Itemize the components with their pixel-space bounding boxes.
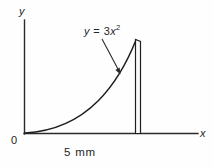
x-axis-label: x — [200, 128, 206, 139]
parabola-strip-diagram: y x 0 5 mm y = 3x2 — [0, 0, 213, 167]
equation-leader-line — [102, 39, 119, 70]
curve-equation-label: y = 3x2 — [84, 26, 121, 37]
x-dimension-label: 5 mm — [64, 147, 96, 159]
differential-strip — [136, 40, 141, 134]
equation-exponent: 2 — [116, 23, 121, 32]
equation-leader-arrowhead — [115, 68, 120, 75]
equation-equals-sign: = — [90, 25, 104, 37]
origin-label: 0 — [11, 135, 17, 146]
parabola-curve — [25, 40, 136, 133]
y-axis-label: y — [19, 6, 25, 17]
